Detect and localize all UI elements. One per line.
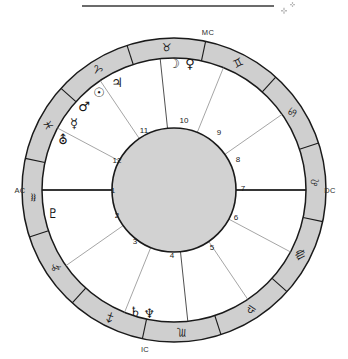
house-number-8: 8 [236, 155, 241, 164]
plus-mark-group [281, 2, 295, 14]
house-cusp-line-9 [209, 241, 248, 299]
house-number-1: 1 [111, 186, 116, 195]
house-cusp-line-4 [160, 59, 167, 129]
house-number-9: 9 [217, 128, 222, 137]
house-cusp-line-10 [180, 252, 187, 322]
inner-aspect-disc [112, 128, 236, 252]
house-number-7: 7 [241, 184, 246, 193]
header-rule-group [82, 2, 295, 14]
astrology-chart-page: ♈♉♊♋♌♍♎♏♐♑♒♓ ☽♀♃☉♂☿⛢♇♄♆ 123456789101112 … [0, 0, 348, 359]
house-cusp-line-12 [66, 226, 123, 266]
zodiac-glyph-leo: ♌ [309, 177, 322, 188]
house-cusp-line-6 [225, 114, 282, 154]
planet-glyph-sun: ☉ [93, 85, 105, 100]
zodiac-glyph-aquarius: ♒ [26, 192, 39, 203]
plus-mark-icon-1 [281, 8, 287, 14]
zodiac-glyph-scorpio: ♏ [176, 326, 187, 340]
natal-chart-wheel: ♈♉♊♋♌♍♎♏♐♑♒♓ ☽♀♃☉♂☿⛢♇♄♆ 123456789101112 … [0, 0, 348, 359]
house-number-11: 11 [140, 126, 149, 135]
planet-glyph-pluto: ♇ [47, 206, 59, 221]
planet-glyph-mercury: ☿ [70, 116, 78, 131]
house-cusp-line-8 [229, 219, 291, 252]
house-number-10: 10 [180, 116, 189, 125]
zodiac-glyph-taurus: ♉ [161, 41, 172, 54]
house-number-5: 5 [210, 243, 215, 252]
planet-glyph-jupiter: ♃ [111, 75, 123, 90]
planet-glyph-uranus: ⛢ [58, 132, 68, 147]
angle-label-ac: AC [14, 186, 25, 195]
planet-glyph-saturn: ♄ [129, 304, 141, 319]
planet-glyph-moon: ☽ [168, 56, 180, 71]
house-number-3: 3 [133, 237, 138, 246]
house-number-2: 2 [115, 211, 120, 220]
planet-glyph-mars: ♂ [78, 99, 90, 114]
house-number-4: 4 [170, 251, 175, 260]
planet-glyph-venus: ♀ [185, 56, 195, 71]
plus-mark-icon-2 [290, 2, 295, 7]
angle-label-mc: MC [202, 28, 215, 37]
planet-glyph-neptune: ♆ [143, 306, 155, 321]
house-number-6: 6 [234, 213, 239, 222]
house-number-12: 12 [113, 156, 122, 165]
angle-label-dc: DC [324, 186, 336, 195]
angle-label-ic: IC [141, 345, 149, 354]
house-cusp-line-5 [197, 68, 223, 133]
